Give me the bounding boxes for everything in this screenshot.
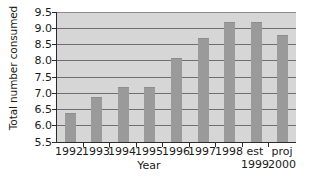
y-tick-label: 8.5	[22, 39, 52, 50]
y-tick-mark	[52, 28, 56, 29]
y-tick-label: 9.5	[22, 7, 52, 18]
bar	[91, 97, 102, 143]
bar	[144, 87, 155, 142]
bar	[65, 113, 76, 142]
bar	[198, 38, 209, 142]
plot-area	[56, 12, 296, 143]
y-axis-title: Total number consumed	[7, 0, 19, 138]
bar	[171, 58, 182, 143]
y-tick-label: 6.5	[22, 104, 52, 115]
x-tick-label-line1: proj	[271, 145, 292, 158]
y-tick-label: 7.5	[22, 72, 52, 83]
bar	[277, 35, 288, 142]
y-tick-mark	[52, 44, 56, 45]
x-tick-label-line1: est	[247, 145, 264, 158]
y-tick-mark	[52, 109, 56, 110]
y-tick-mark	[52, 93, 56, 94]
y-tick-label: 8.0	[22, 55, 52, 66]
x-tick-label-line2: 2000	[265, 159, 299, 172]
y-tick-mark	[52, 60, 56, 61]
bar-chart: Total number consumed 5.56.06.57.07.58.0…	[0, 0, 311, 188]
bar	[251, 22, 262, 142]
gridline	[57, 12, 296, 13]
y-tick-label: 7.0	[22, 88, 52, 99]
y-tick-mark	[52, 125, 56, 126]
y-tick-mark	[52, 142, 56, 143]
y-tick-label: 6.0	[22, 120, 52, 131]
bar	[118, 87, 129, 142]
y-tick-label: 9.0	[22, 23, 52, 34]
bar	[224, 22, 235, 142]
y-tick-mark	[52, 77, 56, 78]
y-axis-tick-labels: 5.56.06.57.07.58.08.59.09.5	[22, 12, 52, 142]
x-axis-title: Year	[56, 159, 242, 172]
y-tick-label: 5.5	[22, 137, 52, 148]
x-tick-label: proj2000	[265, 146, 299, 171]
y-tick-mark	[52, 12, 56, 13]
